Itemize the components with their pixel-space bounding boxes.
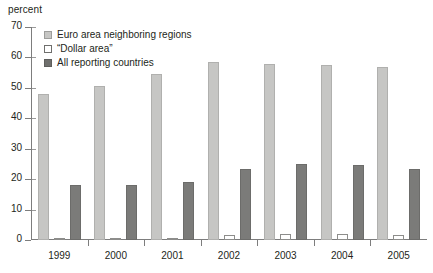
y-axis-tick-label: 60 (11, 50, 22, 62)
y-axis-tick-label: 20 (11, 172, 22, 184)
legend-swatch-icon (44, 59, 52, 67)
bar (377, 67, 388, 240)
bar-group (321, 27, 364, 240)
legend-item-label: All reporting countries (57, 57, 154, 69)
bar (208, 62, 219, 240)
x-axis-tick-label: 2005 (370, 250, 427, 262)
y-axis-tick-label: 10 (11, 203, 22, 215)
bar (126, 185, 137, 240)
x-axis-tick-mark (314, 240, 315, 246)
x-axis: 1999200020012002200320042005 (31, 240, 427, 273)
legend-item-label: Euro area neighboring regions (57, 29, 192, 41)
bar (151, 74, 162, 240)
x-axis-tick-label: 2004 (314, 250, 371, 262)
y-axis-tick-label: 30 (11, 142, 22, 154)
x-axis-tick-label: 1999 (31, 250, 88, 262)
bar (183, 182, 194, 240)
x-axis-tick-mark (88, 240, 89, 246)
bar (94, 86, 105, 240)
legend-item-euro-area: Euro area neighboring regions (44, 28, 192, 41)
x-axis-tick-label: 2001 (144, 250, 201, 262)
bar-chart: percent 706050403020100 1999200020012002… (0, 0, 433, 273)
y-axis-tick-label: 40 (11, 111, 22, 123)
y-axis-tick-label: 70 (11, 20, 22, 32)
x-axis-tick-mark (201, 240, 202, 246)
x-axis-tick-mark (257, 240, 258, 246)
bar-group (264, 27, 307, 240)
bar-group (377, 27, 420, 240)
x-axis-tick-label: 2000 (88, 250, 145, 262)
bar (296, 164, 307, 240)
bar (321, 65, 332, 240)
bar (353, 165, 364, 240)
bar-group (208, 27, 251, 240)
x-axis-tick-mark (144, 240, 145, 246)
y-axis-tick-label: 0 (16, 233, 22, 245)
y-axis-unit-label: percent (8, 4, 42, 16)
legend-swatch-icon (44, 45, 52, 53)
bar (38, 94, 49, 240)
chart-legend: Euro area neighboring regions “Dollar ar… (44, 28, 192, 69)
bar (70, 185, 81, 240)
x-axis-tick-label: 2003 (257, 250, 314, 262)
legend-swatch-icon (44, 31, 52, 39)
x-axis-tick-label: 2002 (201, 250, 258, 262)
legend-item-dollar-area: “Dollar area” (44, 42, 192, 55)
bar (240, 169, 251, 241)
x-axis-tick-mark (370, 240, 371, 246)
legend-item-all-reporting: All reporting countries (44, 56, 192, 69)
bar (409, 169, 420, 241)
bar (264, 64, 275, 240)
y-axis-tick-label: 50 (11, 81, 22, 93)
legend-item-label: “Dollar area” (57, 43, 113, 55)
